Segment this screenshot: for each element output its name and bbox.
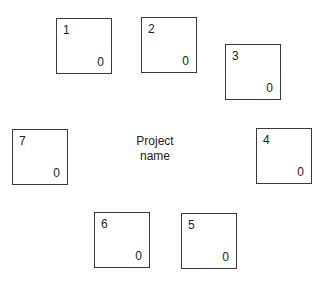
node-count: 0 bbox=[222, 251, 229, 263]
node-number: 7 bbox=[19, 135, 26, 147]
node-box-1: 1 0 bbox=[56, 18, 112, 74]
project-label-line1: Project bbox=[125, 134, 185, 149]
node-box-3: 3 0 bbox=[225, 44, 281, 100]
node-count: 0 bbox=[135, 250, 142, 262]
node-number: 6 bbox=[101, 218, 108, 230]
node-number: 5 bbox=[188, 219, 195, 231]
node-count: 0 bbox=[266, 82, 273, 94]
node-count: 0 bbox=[53, 167, 60, 179]
project-label-line2: name bbox=[125, 149, 185, 164]
node-box-6: 6 0 bbox=[94, 212, 150, 268]
node-box-2: 2 0 bbox=[141, 17, 197, 73]
project-name-label: Project name bbox=[125, 134, 185, 164]
node-count: 0 bbox=[97, 56, 104, 68]
node-number: 4 bbox=[263, 134, 270, 146]
node-count: 0 bbox=[297, 166, 304, 178]
node-number: 2 bbox=[148, 23, 155, 35]
node-box-4: 4 0 bbox=[256, 128, 312, 184]
node-number: 3 bbox=[232, 50, 239, 62]
node-box-5: 5 0 bbox=[181, 213, 237, 269]
node-box-7: 7 0 bbox=[12, 129, 68, 185]
node-number: 1 bbox=[63, 24, 70, 36]
node-count: 0 bbox=[182, 55, 189, 67]
